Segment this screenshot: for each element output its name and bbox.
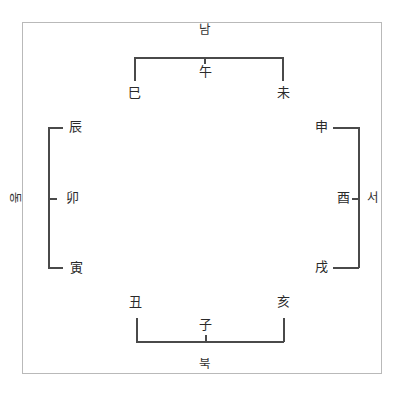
left-bracket-top-leg (48, 127, 63, 129)
branch-label-jin: 辰 (65, 120, 85, 134)
direction-west-label: 서 (361, 191, 385, 205)
top-bracket-right-leg (282, 57, 284, 81)
branch-label-sa: 巳 (124, 86, 144, 100)
right-bracket-center-tick (352, 198, 359, 200)
branch-label-o: 午 (195, 65, 215, 79)
branch-label-hae: 亥 (273, 295, 293, 309)
bottom-bracket-left-leg (136, 318, 138, 342)
left-bracket-bottom-leg (48, 267, 63, 269)
left-bracket-center-tick (48, 198, 57, 200)
branch-label-sin: 申 (311, 120, 331, 134)
branch-label-sul: 戌 (311, 260, 331, 274)
right-bracket-bottom-leg (333, 267, 359, 269)
direction-east-label: 동 (8, 186, 22, 210)
top-bracket-left-leg (134, 57, 136, 81)
bottom-bracket-bar (136, 341, 284, 343)
right-bracket-top-leg (333, 127, 359, 129)
branch-label-mi: 未 (273, 86, 293, 100)
branch-label-myo: 卯 (62, 191, 82, 205)
branch-label-ja: 子 (195, 318, 215, 332)
direction-south-label: 남 (193, 23, 217, 37)
branch-label-yu: 酉 (333, 191, 353, 205)
direction-north-label: 북 (193, 357, 217, 371)
branch-label-in: 寅 (66, 261, 86, 275)
branch-label-chuk: 丑 (125, 295, 145, 309)
top-bracket-center-tick (204, 57, 206, 64)
top-bracket-bar (134, 57, 283, 59)
bottom-bracket-right-leg (283, 318, 285, 342)
bottom-bracket-center-tick (205, 335, 207, 342)
